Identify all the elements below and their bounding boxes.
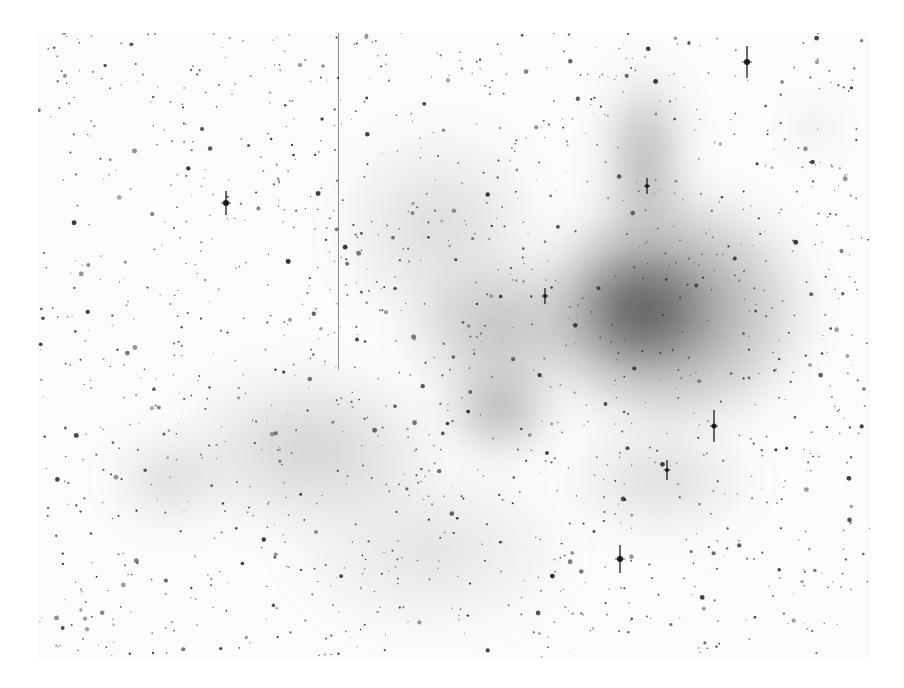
bright-star	[221, 191, 231, 215]
bright-star	[644, 178, 650, 194]
bright-star	[615, 545, 625, 573]
bright-star	[710, 410, 718, 442]
star-field	[38, 33, 870, 658]
bright-star	[742, 46, 752, 78]
nebula-photograph	[38, 33, 870, 658]
bright-star	[664, 460, 670, 480]
bright-star	[542, 288, 548, 304]
